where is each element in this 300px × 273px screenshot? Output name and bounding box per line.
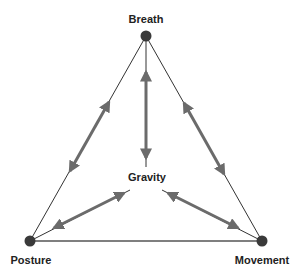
arrow-breath-movement	[184, 103, 224, 174]
arrow-posture-gravity	[54, 193, 124, 228]
label-movement: Movement	[235, 254, 289, 266]
node-posture	[25, 236, 36, 247]
label-posture: Posture	[11, 254, 52, 266]
node-movement	[257, 236, 268, 247]
arrow-breath-posture	[70, 102, 109, 171]
arrow-movement-gravity	[168, 193, 238, 228]
diagram-canvas: Breath Gravity Posture Movement	[0, 0, 300, 273]
label-gravity: Gravity	[128, 171, 166, 183]
label-breath: Breath	[129, 13, 164, 25]
node-breath	[141, 31, 152, 42]
triangle-diagram	[0, 0, 300, 273]
